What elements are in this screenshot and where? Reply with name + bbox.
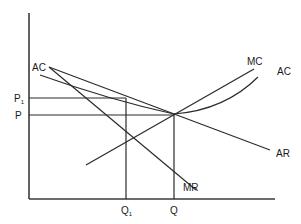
mc-label: MC: [247, 56, 263, 67]
q1-label-sub: 1: [129, 211, 133, 217]
mr-label: MR: [183, 182, 199, 193]
p-label: P: [15, 110, 22, 121]
p1-label-sub: 1: [21, 99, 25, 105]
ac-right-label: AC: [277, 66, 291, 77]
ac-left-label: AC: [32, 62, 46, 73]
q-label: Q: [170, 205, 178, 216]
mc-curve: [86, 69, 254, 165]
q1-label: Q1: [121, 205, 133, 217]
economics-diagram: AC MC AC AR MR P1 P Q1 Q: [0, 0, 301, 224]
ar-label: AR: [276, 148, 290, 159]
p1-label: P1: [14, 93, 25, 105]
ac-curve: [40, 75, 258, 114]
